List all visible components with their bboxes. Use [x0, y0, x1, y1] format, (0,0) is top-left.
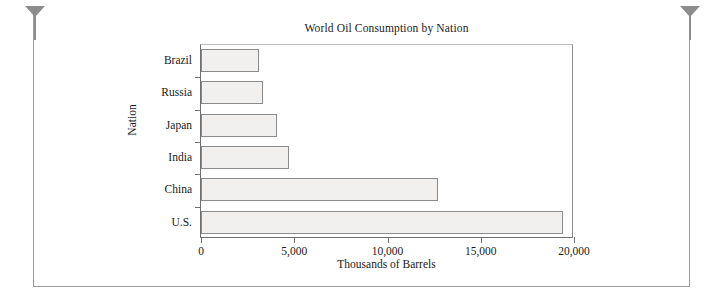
plot-area: BrazilRussiaJapanIndiaChinaU.S.05,00010,…	[200, 44, 573, 238]
bar-row: U.S.	[201, 207, 574, 238]
bar-japan	[201, 114, 277, 137]
bar-row: China	[201, 174, 574, 205]
y-axis-tick-mark	[195, 207, 201, 208]
y-axis-tick-label: Brazil	[164, 45, 192, 76]
bar-india	[201, 146, 289, 169]
x-axis-tick-label: 0	[198, 245, 204, 257]
bar-u-s	[201, 211, 563, 234]
y-axis-tick-mark	[195, 142, 201, 143]
x-axis-tick-label: 15,000	[465, 245, 497, 257]
y-axis-title: Nation	[126, 104, 138, 135]
y-axis-tick-label: Russia	[161, 77, 192, 108]
y-axis-tick-label: Japan	[166, 110, 192, 141]
bar-row: India	[201, 142, 574, 173]
bar-row: Russia	[201, 77, 574, 108]
x-axis-tick-label: 10,000	[372, 245, 404, 257]
y-axis-tick-mark	[195, 174, 201, 175]
chart-title: World Oil Consumption by Nation	[200, 22, 573, 34]
x-axis-tick-label: 20,000	[558, 245, 590, 257]
x-axis-tick-mark	[294, 237, 295, 243]
y-axis-tick-mark	[195, 110, 201, 111]
x-axis-tick-label: 5,000	[281, 245, 307, 257]
x-axis-title: Thousands of Barrels	[200, 258, 573, 270]
y-axis-tick-label: China	[165, 174, 192, 205]
y-axis-tick-label: India	[168, 142, 192, 173]
y-axis-tick-label: U.S.	[172, 207, 192, 238]
x-axis-tick-mark	[388, 237, 389, 243]
y-axis-tick-mark	[195, 77, 201, 78]
bar-brazil	[201, 49, 259, 72]
x-axis-tick-mark	[574, 237, 575, 243]
bar-row: Japan	[201, 110, 574, 141]
bar-row: Brazil	[201, 45, 574, 76]
x-axis-tick-mark	[201, 237, 202, 243]
bar-chart-figure: World Oil Consumption by Nation Nation B…	[0, 0, 721, 301]
bar-russia	[201, 81, 263, 104]
x-axis-tick-mark	[481, 237, 482, 243]
bar-china	[201, 178, 438, 201]
